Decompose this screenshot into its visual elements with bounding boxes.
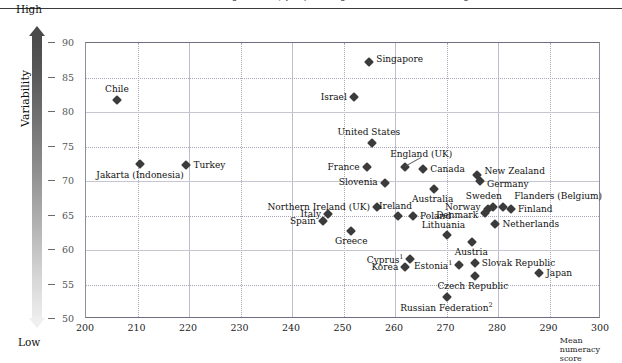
y-tick-label: 75 xyxy=(52,140,74,151)
point-label: Czech Republic xyxy=(437,281,508,290)
point-label: Slovak Republic xyxy=(482,259,555,268)
point-label: Chile xyxy=(105,85,129,94)
figure-title: mean numeracy scores, proficiency scores… xyxy=(150,0,471,2)
y-tick-mark xyxy=(48,146,55,147)
scatter-point[interactable] xyxy=(442,230,452,240)
title-rule xyxy=(0,8,622,9)
scatter-point[interactable] xyxy=(380,178,390,188)
gradient-arrow-down-icon xyxy=(29,318,45,328)
point-label: Sweden xyxy=(466,191,502,200)
y-tick-mark xyxy=(48,111,55,112)
gridline-vertical xyxy=(395,43,396,317)
point-label: Finland xyxy=(518,205,553,214)
point-label: United States xyxy=(338,128,401,137)
point-label: Austria xyxy=(455,247,488,256)
y-tick-mark xyxy=(48,284,55,285)
scatter-point[interactable] xyxy=(442,292,452,302)
y-tick-mark xyxy=(48,249,55,250)
gradient-bar xyxy=(32,34,42,320)
x-tick-label: 210 xyxy=(127,322,145,333)
point-label: Korea xyxy=(371,262,398,271)
point-label: Turkey xyxy=(193,161,225,170)
y-tick-mark xyxy=(48,318,55,319)
y-tick-mark xyxy=(48,42,55,43)
y-tick-label: 65 xyxy=(52,209,74,220)
scatter-point[interactable] xyxy=(418,164,428,174)
gridline-horizontal xyxy=(86,78,599,79)
y-tick-mark xyxy=(48,215,55,216)
footnote-marker: 1 xyxy=(448,259,452,267)
scatter-point[interactable] xyxy=(506,204,516,214)
y-tick-label: 55 xyxy=(52,278,74,289)
scatter-point[interactable] xyxy=(534,269,544,279)
gridline-horizontal xyxy=(86,285,599,286)
x-tick-label: 240 xyxy=(282,322,300,333)
x-tick-label: 200 xyxy=(76,322,94,333)
y-tick-label: 70 xyxy=(52,175,74,186)
gradient-low-label: Low xyxy=(18,336,40,348)
y-tick-label: 90 xyxy=(52,37,74,48)
x-axis-title: Mean numeracy score xyxy=(560,336,600,363)
scatter-point[interactable] xyxy=(467,237,477,247)
y-tick-label: 50 xyxy=(52,313,74,324)
point-label: England (UK) xyxy=(390,150,452,159)
x-tick-label: 300 xyxy=(591,322,609,333)
point-label: Canada xyxy=(430,165,465,174)
scatter-point[interactable] xyxy=(470,271,480,281)
scatter-point[interactable] xyxy=(408,211,418,221)
x-tick-label: 280 xyxy=(488,322,506,333)
x-tick-label: 230 xyxy=(230,322,248,333)
point-label: Lithuania xyxy=(422,220,465,229)
gridline-vertical xyxy=(292,43,293,317)
footnote-marker: 2 xyxy=(489,300,493,308)
footnote-marker: 1 xyxy=(399,252,403,260)
y-tick-mark xyxy=(48,180,55,181)
point-label: Singapore xyxy=(376,55,423,64)
scatter-point[interactable] xyxy=(470,258,480,268)
point-label: Estonia1 xyxy=(414,260,452,271)
scatter-point[interactable] xyxy=(364,57,374,67)
y-tick-mark xyxy=(48,77,55,78)
x-tick-label: 290 xyxy=(539,322,557,333)
point-label: France xyxy=(328,163,360,172)
point-label: Germany xyxy=(487,180,529,189)
gridline-horizontal xyxy=(86,147,599,148)
scatter-point[interactable] xyxy=(112,95,122,105)
point-label: Slovenia xyxy=(339,178,378,187)
point-label: Netherlands xyxy=(502,220,559,229)
gridline-vertical xyxy=(241,43,242,317)
x-tick-label: 220 xyxy=(179,322,197,333)
point-label: Israel xyxy=(321,92,347,101)
gridline-horizontal xyxy=(86,250,599,251)
gradient-high-label: High xyxy=(16,3,42,15)
gridline-vertical xyxy=(447,43,448,317)
scatter-point[interactable] xyxy=(362,162,372,172)
point-label: New Zealand xyxy=(484,167,545,176)
scatter-point[interactable] xyxy=(454,260,464,270)
y-tick-label: 80 xyxy=(52,106,74,117)
scatter-point[interactable] xyxy=(349,92,359,102)
point-label: Flanders (Belgium) xyxy=(514,191,602,200)
scatter-point[interactable] xyxy=(346,226,356,236)
point-label: Japan xyxy=(546,269,572,278)
label-leader-line xyxy=(405,157,421,167)
point-label: Russian Federation2 xyxy=(400,301,492,312)
plot-area: ChileJakarta (Indonesia)TurkeySingaporeI… xyxy=(85,42,600,318)
gridline-vertical xyxy=(138,43,139,317)
y-axis-title: Variability xyxy=(19,56,32,142)
gridline-horizontal xyxy=(86,112,599,113)
x-tick-label: 250 xyxy=(333,322,351,333)
point-label: Jakarta (Indonesia) xyxy=(96,170,183,179)
y-tick-label: 85 xyxy=(52,71,74,82)
x-tick-label: 270 xyxy=(436,322,454,333)
y-tick-label: 60 xyxy=(52,244,74,255)
point-label: Spain xyxy=(290,217,316,226)
scatter-point[interactable] xyxy=(429,184,439,194)
x-tick-label: 260 xyxy=(385,322,403,333)
gridline-horizontal xyxy=(86,216,599,217)
point-label: Ireland xyxy=(379,201,412,210)
point-label: Greece xyxy=(335,237,368,246)
gridline-vertical xyxy=(189,43,190,317)
